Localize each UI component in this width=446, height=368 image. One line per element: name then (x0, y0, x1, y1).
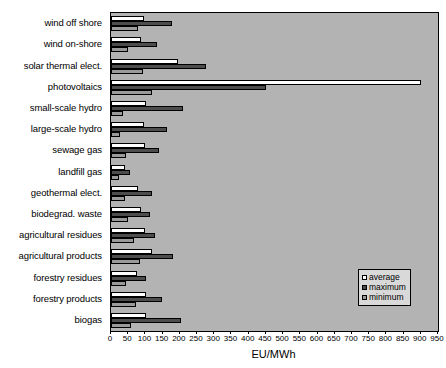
x-tick-label: 800 (379, 334, 392, 343)
legend-swatch-maximum-icon (362, 285, 367, 290)
bar-group (111, 34, 438, 55)
bar-group (111, 183, 438, 204)
category-label: large-scale hydro (0, 118, 106, 139)
bar-minimum (111, 26, 138, 31)
x-tick-label: 150 (155, 334, 168, 343)
bar-minimum (111, 217, 128, 222)
category-label: biodegrad. waste (0, 203, 106, 224)
x-axis: 0501001502002503003504004505005506006507… (110, 331, 437, 347)
category-label: wind on-shore (0, 33, 106, 54)
x-tick-label: 950 (430, 334, 443, 343)
x-tick-label: 500 (275, 334, 288, 343)
bar-group (111, 225, 438, 246)
bar-minimum (111, 302, 136, 307)
x-tick-label: 650 (327, 334, 340, 343)
legend-label: minimum (369, 292, 403, 302)
x-tick-label: 450 (258, 334, 271, 343)
bar-minimum (111, 238, 134, 243)
legend-item-minimum: minimum (362, 292, 406, 302)
category-label: agricultural products (0, 245, 106, 266)
x-tick-label: 400 (241, 334, 254, 343)
category-label: photovoltaics (0, 76, 106, 97)
x-tick-label: 600 (310, 334, 323, 343)
bar-group (111, 140, 438, 161)
bar-group (111, 98, 438, 119)
category-label: geothermal elect. (0, 182, 106, 203)
x-tick-label: 50 (123, 334, 132, 343)
legend-label: maximum (369, 282, 406, 292)
bar-minimum (111, 196, 125, 201)
bar-group (111, 161, 438, 182)
bar-group (111, 204, 438, 225)
bar-group (111, 55, 438, 76)
legend-swatch-minimum-icon (362, 295, 367, 300)
bar-group (111, 246, 438, 267)
bar-minimum (111, 175, 119, 180)
x-tick-label: 700 (344, 334, 357, 343)
category-label: forestry residues (0, 266, 106, 287)
legend-swatch-average-icon (362, 275, 367, 280)
bar-minimum (111, 132, 120, 137)
x-tick-label: 200 (172, 334, 185, 343)
x-tick-label: 750 (361, 334, 374, 343)
x-tick-label: 550 (293, 334, 306, 343)
x-axis-title: EU/MWh (110, 348, 437, 360)
category-label: solar thermal elect. (0, 54, 106, 75)
category-label: agricultural residues (0, 224, 106, 245)
bar-group (111, 77, 438, 98)
bar-group (111, 13, 438, 34)
category-label: landfill gas (0, 160, 106, 181)
category-label: wind off shore (0, 12, 106, 33)
bar-minimum (111, 323, 131, 328)
x-tick-label: 250 (189, 334, 202, 343)
bar-minimum (111, 111, 123, 116)
category-label: biogas (0, 309, 106, 330)
x-tick-label: 350 (224, 334, 237, 343)
category-axis: wind off shorewind on-shoresolar thermal… (0, 12, 106, 330)
chart-legend: averagemaximumminimum (358, 269, 411, 306)
bar-group (111, 310, 438, 331)
x-tick-label: 900 (413, 334, 426, 343)
x-tick-label: 850 (396, 334, 409, 343)
x-tick-label: 0 (108, 334, 112, 343)
bar-minimum (111, 90, 152, 95)
bar-minimum (111, 281, 126, 286)
legend-item-average: average (362, 272, 406, 282)
bar-chart: wind off shorewind on-shoresolar thermal… (0, 0, 446, 368)
bar-minimum (111, 153, 126, 158)
legend-label: average (369, 272, 400, 282)
bar-group (111, 119, 438, 140)
bar-minimum (111, 47, 128, 52)
bar-minimum (111, 259, 140, 264)
category-label: sewage gas (0, 139, 106, 160)
category-label: small-scale hydro (0, 97, 106, 118)
bar-minimum (111, 69, 143, 74)
legend-item-maximum: maximum (362, 282, 406, 292)
x-tick-label: 100 (138, 334, 151, 343)
x-tick-label: 300 (207, 334, 220, 343)
category-label: forestry products (0, 288, 106, 309)
